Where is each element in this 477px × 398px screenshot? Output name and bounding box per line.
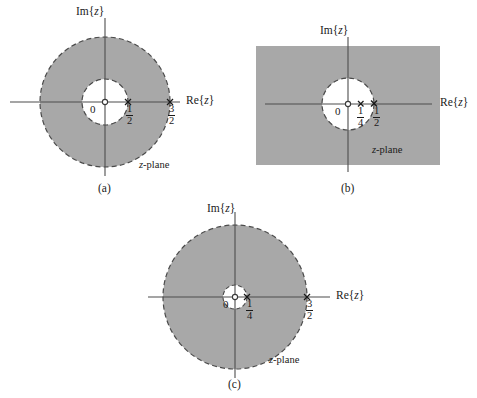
panel-a-inner-radius-label: 1 2 [126, 104, 133, 126]
panel-b-plane-label: z-plane [372, 145, 402, 156]
panel-c-imag-axis-label: Im{z} [207, 203, 235, 215]
panel-b-inner-radius-label: 1 2 [373, 106, 380, 128]
panel-c-origin-marker [232, 294, 237, 299]
panel-c-plane-label: z-plane [269, 355, 299, 366]
panel-c-origin-label: 0 [223, 299, 229, 310]
panel-b-caption: (b) [341, 183, 354, 195]
panel-b-real-axis-label: Re{z} [440, 97, 468, 109]
panel-c-roc-shading [0, 0, 477, 398]
panel-b-imag-axis-label: Im{z} [320, 25, 348, 37]
panel-a-origin-label: 0 [90, 104, 96, 115]
panel-c-caption: (c) [228, 379, 241, 391]
panel-a-outer-radius-label: 3 2 [168, 104, 175, 126]
panel-b-origin-label: 0 [335, 106, 341, 117]
panel-a-caption: (a) [98, 183, 111, 195]
panel-a-plane-label: z-plane [139, 160, 169, 171]
panel-a-real-axis-label: Re{z} [186, 95, 214, 107]
panel-c-outer-radius-label: 3 2 [306, 299, 313, 321]
panel-a-imag-axis-label: Im{z} [76, 6, 104, 18]
roc-diagram-svg [0, 0, 477, 398]
panel-c-graphics [0, 0, 477, 398]
panel-b-pole-quarter-label: 1 4 [357, 106, 364, 128]
roc-figure: Im{z} Re{z} 0 1 2 3 2 z-plane (a) Im{z} … [0, 0, 477, 398]
panel-c-real-axis-label: Re{z} [336, 290, 364, 302]
panel-c-inner-radius-label: 1 4 [246, 299, 253, 321]
